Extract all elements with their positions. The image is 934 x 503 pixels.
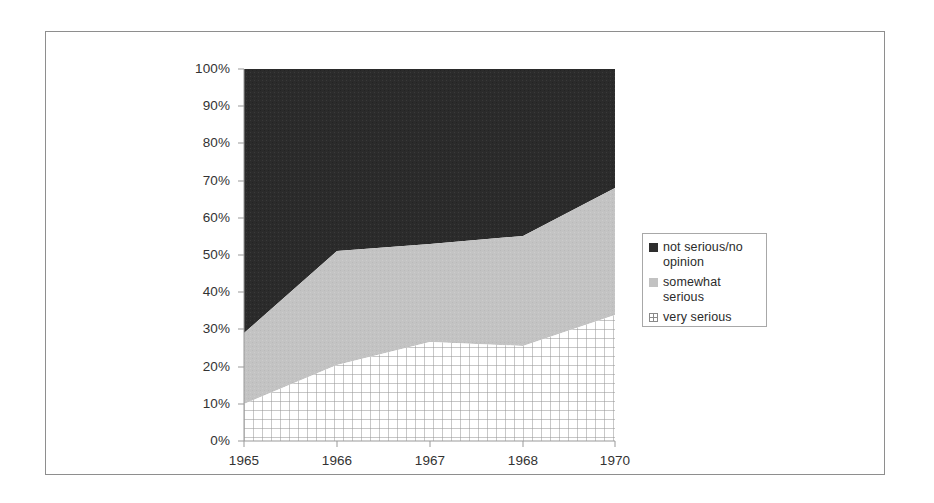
- y-tick-label-10: 10%: [182, 398, 230, 410]
- legend-label-somewhat-serious: somewhat serious: [663, 275, 761, 304]
- crosshatch-square-swatch: [649, 313, 658, 322]
- chart-canvas: 100% 90% 80% 70% 60% 50% 40% 30% 20% 10%…: [46, 32, 886, 476]
- legend-label-very-serious: very serious: [663, 310, 732, 325]
- dark-square-swatch: [649, 243, 658, 252]
- x-tick-label-1970: 1970: [580, 454, 650, 468]
- figure-frame: 100% 90% 80% 70% 60% 50% 40% 30% 20% 10%…: [45, 31, 885, 475]
- y-tick-label-20: 20%: [182, 361, 230, 373]
- x-tick-label-1965: 1965: [209, 454, 279, 468]
- y-tick-label-60: 60%: [182, 212, 230, 224]
- x-tick-marks: [244, 441, 615, 447]
- y-tick-label-0: 0%: [182, 435, 230, 447]
- y-tick-marks: [238, 69, 244, 441]
- y-tick-label-80: 80%: [182, 137, 230, 149]
- x-tick-label-1967: 1967: [395, 454, 465, 468]
- y-tick-label-30: 30%: [182, 323, 230, 335]
- y-tick-label-90: 90%: [182, 100, 230, 112]
- y-tick-label-40: 40%: [182, 286, 230, 298]
- chart-legend: not serious/no opinion somewhat serious …: [642, 233, 767, 327]
- y-tick-label-50: 50%: [182, 249, 230, 261]
- legend-item-very-serious: very serious: [649, 310, 761, 325]
- legend-item-not-serious-no-opinion: not serious/no opinion: [649, 240, 761, 269]
- gray-square-swatch: [649, 278, 658, 287]
- y-tick-label-70: 70%: [182, 175, 230, 187]
- x-tick-label-1966: 1966: [302, 454, 372, 468]
- legend-label-not-serious-no-opinion: not serious/no opinion: [663, 240, 761, 269]
- x-tick-label-1968: 1968: [488, 454, 558, 468]
- legend-item-somewhat-serious: somewhat serious: [649, 275, 761, 304]
- y-tick-label-100: 100%: [182, 63, 230, 75]
